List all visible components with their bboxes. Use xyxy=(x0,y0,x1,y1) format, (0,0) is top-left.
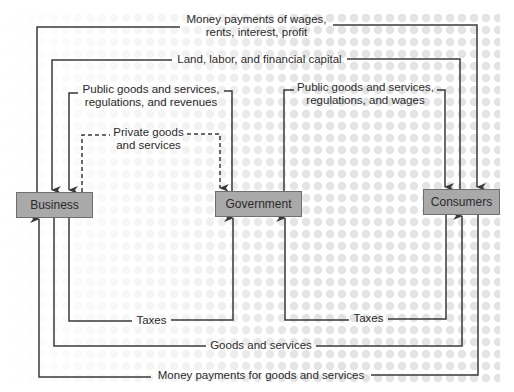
label-wages-payments: Money payments of wages, rents, interest… xyxy=(180,13,333,39)
node-government-label: Government xyxy=(225,197,291,211)
node-business: Business xyxy=(16,192,93,218)
label-consumer-taxes: Taxes xyxy=(349,312,388,325)
label-private-goods-line1: Private goods xyxy=(110,126,187,139)
label-wages-payments-line1: Money payments of wages, xyxy=(180,13,333,26)
node-business-label: Business xyxy=(30,198,79,212)
label-private-goods-line2: and services xyxy=(110,139,187,152)
label-gov-to-business-line1: Public goods and services, xyxy=(78,83,224,96)
node-government: Government xyxy=(215,191,302,217)
node-consumers: Consumers xyxy=(423,189,500,215)
label-goods-services: Goods and services xyxy=(206,339,316,352)
label-gov-to-business-line2: regulations, and revenues xyxy=(78,96,224,109)
label-private-goods: Private goods and services xyxy=(110,126,187,152)
circular-flow-diagram: Business Government Consumers Money paym… xyxy=(0,0,514,392)
node-consumers-label: Consumers xyxy=(431,195,492,209)
label-business-taxes: Taxes xyxy=(132,314,171,327)
label-goods-payments: Money payments for goods and services xyxy=(151,369,371,382)
label-gov-to-consumers-line1: Public goods and services, xyxy=(294,81,437,94)
label-gov-to-consumers: Public goods and services, regulations, … xyxy=(294,81,437,107)
label-wages-payments-line2: rents, interest, profit xyxy=(180,26,333,39)
label-gov-to-business: Public goods and services, regulations, … xyxy=(78,83,224,109)
label-factors: Land, labor, and financial capital xyxy=(172,53,347,66)
label-gov-to-consumers-line2: regulations, and wages xyxy=(294,94,437,107)
